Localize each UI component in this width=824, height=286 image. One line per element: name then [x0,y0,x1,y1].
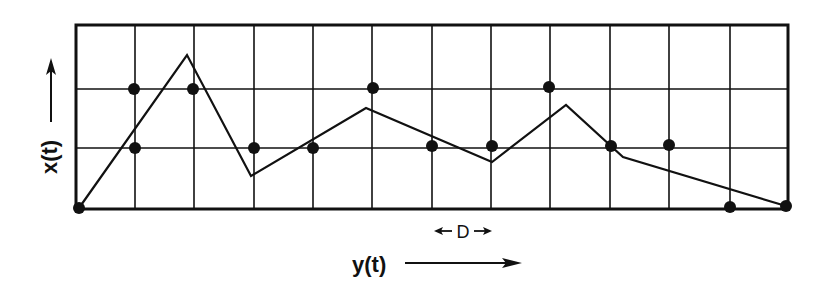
grid-lines [76,25,788,209]
spacing-marker: D [434,222,492,242]
y-axis-label: x(t) [37,140,62,174]
sample-dot [248,142,260,154]
x-axis-label: y(t) [352,252,386,277]
x-axis-label-group: y(t) [352,252,522,277]
sample-dot [187,83,199,95]
sample-dot [129,142,141,154]
spacing-label: D [457,222,470,242]
sample-dot [307,142,319,154]
sampled-signal-diagram: x(t) y(t) D [0,0,824,286]
sample-dot [73,202,85,214]
sample-dot [663,139,675,151]
sample-dot [367,82,379,94]
sample-dot [486,140,498,152]
sample-dot [724,201,736,213]
sample-dot [780,200,792,212]
sample-dot [426,140,438,152]
sample-dot [128,83,140,95]
sample-dot [543,81,555,93]
sample-dot [605,140,617,152]
y-axis-label-group: x(t) [37,58,62,174]
